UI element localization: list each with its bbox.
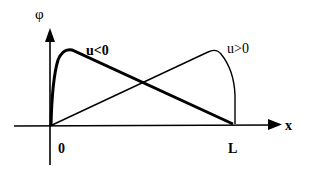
x-axis-label: x — [285, 118, 292, 133]
y-axis-label: φ — [35, 6, 44, 22]
curve-label-u-negative: u<0 — [86, 43, 109, 58]
curve-label-u-positive: u>0 — [227, 41, 249, 56]
curve-u-positive — [50, 50, 235, 126]
length-label: L — [228, 141, 237, 156]
curve-u-negative — [51, 50, 233, 126]
diagram-canvas: φ x 0 L u<0 u>0 — [0, 0, 309, 172]
origin-label: 0 — [58, 141, 65, 156]
y-axis-arrow-icon — [45, 28, 55, 42]
x-axis-arrow-icon — [268, 119, 282, 130]
